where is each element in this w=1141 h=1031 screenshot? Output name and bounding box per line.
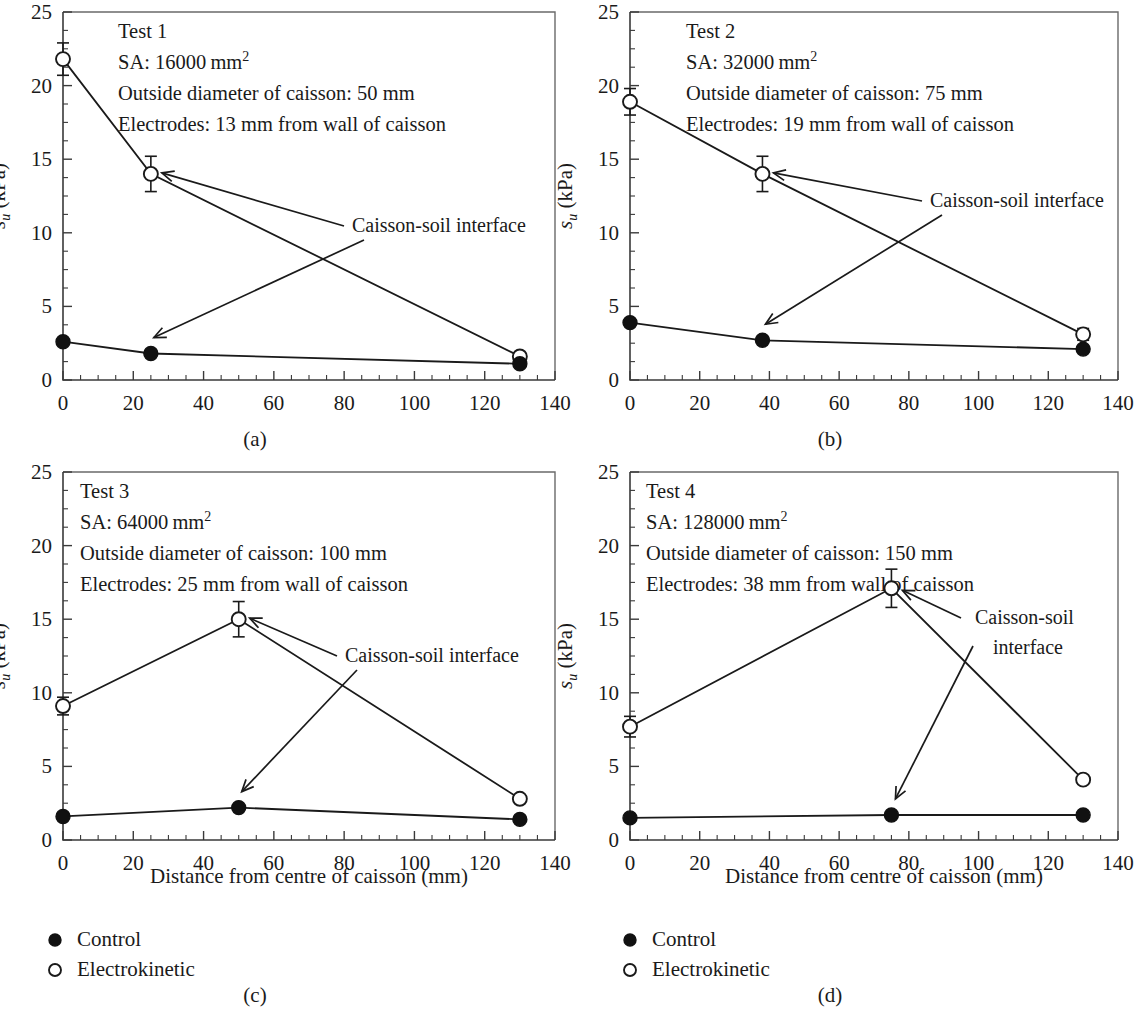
x-tick-label: 100 bbox=[963, 391, 995, 415]
y-tick-label: 15 bbox=[31, 607, 52, 631]
test-title: Test 3 bbox=[80, 480, 129, 502]
x-axis-title: Distance from centre of caisson (mm) bbox=[725, 864, 1043, 888]
x-tick-label: 20 bbox=[123, 391, 144, 415]
data-point-electrokinetic bbox=[232, 612, 246, 626]
y-tick-label: 0 bbox=[42, 828, 53, 852]
data-point-electrokinetic bbox=[144, 167, 158, 181]
surface-area-text: SA: 16000 mm2 bbox=[118, 49, 249, 73]
data-point-control bbox=[884, 808, 898, 822]
data-point-electrokinetic bbox=[755, 167, 769, 181]
data-point-control bbox=[56, 335, 70, 349]
panel-label: (d) bbox=[818, 983, 843, 1007]
x-tick-label: 20 bbox=[689, 851, 710, 875]
legend-label-control: Control bbox=[77, 927, 141, 951]
data-point-control bbox=[1076, 808, 1090, 822]
surface-area-text: SA: 128000 mm2 bbox=[646, 509, 788, 533]
y-tick-label: 15 bbox=[598, 607, 619, 631]
data-point-control bbox=[144, 347, 158, 361]
y-tick-label: 5 bbox=[42, 754, 53, 778]
x-tick-label: 80 bbox=[334, 391, 355, 415]
y-tick-label: 10 bbox=[598, 681, 619, 705]
annotation-label: interface bbox=[993, 636, 1063, 658]
y-tick-label: 25 bbox=[31, 0, 52, 24]
data-point-electrokinetic bbox=[56, 52, 70, 66]
y-tick-label: 20 bbox=[31, 534, 52, 558]
charts-canvas: 0510152025020406080100120140su (kPa)Test… bbox=[0, 0, 1141, 1031]
data-point-electrokinetic bbox=[1076, 773, 1090, 787]
data-point-control bbox=[513, 357, 527, 371]
annotation-label: Caisson-soil bbox=[975, 606, 1074, 628]
x-tick-label: 0 bbox=[58, 851, 69, 875]
x-tick-label: 0 bbox=[625, 391, 636, 415]
annotation-label: Caisson-soil interface bbox=[352, 214, 526, 236]
y-tick-label: 10 bbox=[598, 221, 619, 245]
data-point-control bbox=[232, 801, 246, 815]
outside-diameter-text: Outside diameter of caisson: 100 mm bbox=[80, 542, 387, 564]
legend-label-electrokinetic: Electrokinetic bbox=[77, 957, 195, 981]
surface-area-text: SA: 32000 mm2 bbox=[686, 49, 817, 73]
y-tick-label: 15 bbox=[31, 147, 52, 171]
x-tick-label: 100 bbox=[399, 391, 431, 415]
surface-area-text: SA: 64000 mm2 bbox=[80, 509, 211, 533]
data-point-electrokinetic bbox=[513, 792, 527, 806]
x-tick-label: 120 bbox=[1033, 391, 1065, 415]
data-point-electrokinetic bbox=[884, 581, 898, 595]
legend-marker-control bbox=[624, 934, 636, 946]
test-title: Test 1 bbox=[118, 20, 167, 42]
x-tick-label: 120 bbox=[469, 851, 501, 875]
legend-label-control: Control bbox=[652, 927, 716, 951]
test-title: Test 2 bbox=[686, 20, 735, 42]
data-point-control bbox=[623, 316, 637, 330]
x-tick-label: 0 bbox=[625, 851, 636, 875]
y-tick-label: 5 bbox=[609, 754, 620, 778]
figure-root: 0510152025020406080100120140su (kPa)Test… bbox=[0, 0, 1141, 1031]
y-tick-label: 5 bbox=[42, 294, 53, 318]
data-point-electrokinetic bbox=[623, 720, 637, 734]
y-tick-label: 20 bbox=[598, 74, 619, 98]
x-tick-label: 60 bbox=[829, 391, 850, 415]
data-point-electrokinetic bbox=[623, 95, 637, 109]
y-tick-label: 15 bbox=[598, 147, 619, 171]
outside-diameter-text: Outside diameter of caisson: 75 mm bbox=[686, 82, 983, 104]
x-tick-label: 40 bbox=[759, 391, 780, 415]
data-point-control bbox=[513, 812, 527, 826]
electrodes-text: Electrodes: 13 mm from wall of caisson bbox=[118, 113, 446, 135]
data-point-electrokinetic bbox=[56, 699, 70, 713]
x-tick-label: 40 bbox=[193, 391, 214, 415]
x-axis-title: Distance from centre of caisson (mm) bbox=[150, 864, 468, 888]
x-tick-label: 140 bbox=[1102, 391, 1134, 415]
y-tick-label: 25 bbox=[598, 460, 619, 484]
y-tick-label: 5 bbox=[609, 294, 620, 318]
y-tick-label: 10 bbox=[31, 221, 52, 245]
data-point-control bbox=[623, 811, 637, 825]
y-tick-label: 10 bbox=[31, 681, 52, 705]
legend-marker-control bbox=[49, 934, 61, 946]
y-tick-label: 0 bbox=[609, 368, 620, 392]
y-tick-label: 25 bbox=[31, 460, 52, 484]
panel-label: (b) bbox=[818, 427, 843, 451]
electrodes-text: Electrodes: 25 mm from wall of caisson bbox=[80, 573, 408, 595]
annotation-label: Caisson-soil interface bbox=[345, 644, 519, 666]
x-tick-label: 140 bbox=[539, 391, 571, 415]
outside-diameter-text: Outside diameter of caisson: 50 mm bbox=[118, 82, 415, 104]
y-tick-label: 25 bbox=[598, 0, 619, 24]
x-tick-label: 80 bbox=[898, 391, 919, 415]
test-title: Test 4 bbox=[646, 480, 695, 502]
panel-label: (a) bbox=[243, 427, 266, 451]
y-tick-label: 0 bbox=[609, 828, 620, 852]
y-tick-label: 20 bbox=[598, 534, 619, 558]
x-tick-label: 140 bbox=[1102, 851, 1134, 875]
x-tick-label: 20 bbox=[689, 391, 710, 415]
y-tick-label: 20 bbox=[31, 74, 52, 98]
legend-marker-electrokinetic bbox=[624, 964, 636, 976]
data-point-electrokinetic bbox=[1076, 327, 1090, 341]
data-point-control bbox=[56, 809, 70, 823]
x-tick-label: 20 bbox=[123, 851, 144, 875]
annotation-label: Caisson-soil interface bbox=[930, 189, 1104, 211]
x-tick-label: 120 bbox=[469, 391, 501, 415]
panel-label: (c) bbox=[243, 983, 266, 1007]
electrodes-text: Electrodes: 19 mm from wall of caisson bbox=[686, 113, 1014, 135]
x-tick-label: 60 bbox=[263, 391, 284, 415]
legend-marker-electrokinetic bbox=[49, 964, 61, 976]
legend-label-electrokinetic: Electrokinetic bbox=[652, 957, 770, 981]
